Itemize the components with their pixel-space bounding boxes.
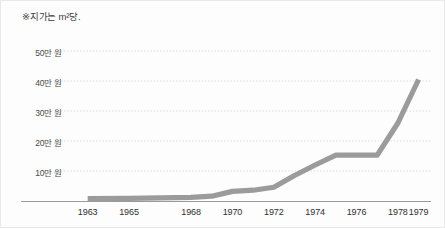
y-axis-tick-label: 10만 원	[16, 166, 62, 178]
x-axis-tick-label: 1970	[223, 207, 243, 217]
x-axis-tick-label: 1965	[119, 207, 139, 217]
x-axis-tick-label: 1974	[305, 207, 325, 217]
y-axis-tick-label: 30만 원	[16, 106, 62, 118]
x-axis-tick-label: 1972	[264, 207, 284, 217]
x-axis-tick-label: 1976	[347, 207, 367, 217]
chart-figure: ※지가는 m²당. 50만 원40만 원30만 원20만 원10만 원 1963…	[0, 0, 445, 228]
data-series-line	[88, 80, 419, 199]
y-axis-tick-label: 20만 원	[16, 136, 62, 148]
y-axis-tick-label: 40만 원	[16, 76, 62, 88]
y-axis-tick-label: 50만 원	[16, 46, 62, 58]
x-axis-tick-label: 1968	[181, 207, 201, 217]
x-axis-tick-label: 1978	[388, 207, 408, 217]
x-axis-tick-label: 1963	[78, 207, 98, 217]
x-axis-tick-label: 1979	[409, 207, 429, 217]
line-chart-plot	[1, 1, 445, 228]
